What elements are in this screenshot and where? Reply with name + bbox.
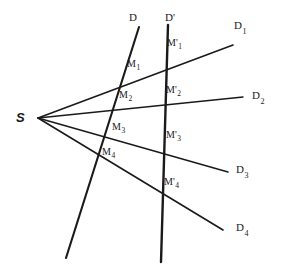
- ray-label-d2-base: D: [252, 89, 260, 101]
- ray-label-d4-subscript: 4: [244, 229, 248, 238]
- point-label-m3-prime-subscript: 3: [177, 134, 181, 143]
- source-point-label: S: [16, 111, 25, 124]
- ray-d3: [38, 118, 228, 172]
- ray-label-d2-subscript: 2: [260, 97, 264, 106]
- ray-label-d3: D3: [236, 164, 248, 178]
- point-label-m3-subscript: 3: [121, 126, 125, 135]
- ray-label-d1-subscript: 1: [242, 27, 246, 36]
- geometry-diagram: S D D' D1 D2 D3 D4 M1 M2 M3 M4 M'1 M'2 M…: [0, 0, 283, 268]
- point-label-m3-prime-base: M: [166, 129, 175, 140]
- ray-label-d2: D2: [252, 90, 264, 104]
- point-label-m4-prime-subscript: 4: [175, 181, 179, 190]
- transversal-label-d-prime-text: D: [165, 11, 173, 23]
- ray-label-d1: D1: [234, 20, 246, 34]
- point-label-m2-prime: M'2: [166, 85, 180, 95]
- point-label-m1-prime-subscript: 1: [178, 42, 182, 51]
- ray-label-d1-base: D: [234, 19, 242, 31]
- transversal-label-d-prime: D': [165, 12, 175, 23]
- ray-group: [38, 45, 243, 230]
- point-label-m4-subscript: 4: [111, 151, 115, 160]
- transversal-label-d-text: D: [129, 11, 137, 23]
- point-label-m2-prime-base: M: [166, 84, 175, 95]
- point-label-m1-base: M: [127, 58, 136, 69]
- point-label-m4-prime: M'4: [164, 177, 178, 187]
- point-label-m3-base: M: [112, 121, 121, 132]
- point-label-m1: M1: [127, 59, 140, 69]
- ray-d1: [38, 45, 233, 118]
- point-label-m4-base: M: [102, 146, 111, 157]
- point-label-m4: M4: [102, 147, 115, 157]
- point-label-m3: M3: [112, 122, 125, 132]
- point-label-m2-prime-subscript: 2: [177, 89, 181, 98]
- point-label-m1-prime-base: M: [167, 37, 176, 48]
- point-label-m2-subscript: 2: [128, 94, 132, 103]
- point-label-m2: M2: [119, 90, 132, 100]
- transversal-label-d: D: [129, 12, 137, 23]
- point-label-m4-prime-base: M: [164, 176, 173, 187]
- ray-label-d4: D4: [236, 222, 248, 236]
- point-label-m3-prime: M'3: [166, 130, 180, 140]
- ray-label-d3-subscript: 3: [244, 171, 248, 180]
- prime-mark-icon: ': [173, 11, 175, 23]
- point-label-m1-subscript: 1: [136, 63, 140, 72]
- ray-d2: [38, 97, 243, 118]
- transversal-line-d-prime: [161, 25, 168, 262]
- ray-label-d3-base: D: [236, 163, 244, 175]
- ray-d4: [38, 118, 223, 230]
- point-label-m1-prime: M'1: [167, 38, 181, 48]
- ray-label-d4-base: D: [236, 221, 244, 233]
- point-label-m2-base: M: [119, 89, 128, 100]
